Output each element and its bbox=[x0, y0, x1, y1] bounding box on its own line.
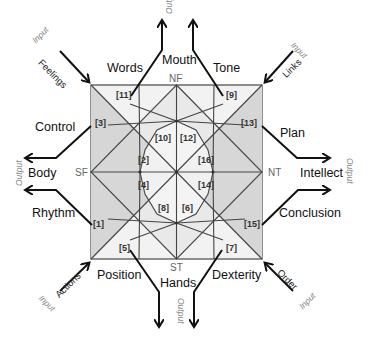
label-tone: Tone bbox=[213, 61, 240, 75]
region-10: [10] bbox=[155, 133, 171, 143]
region-8: [8] bbox=[158, 203, 169, 213]
region-15: [15] bbox=[244, 219, 260, 229]
arrow-dexterity bbox=[194, 250, 222, 325]
arrow-hands bbox=[130, 250, 159, 325]
region-12: [12] bbox=[180, 133, 196, 143]
label-plan: Plan bbox=[280, 126, 305, 140]
label-body: Body bbox=[28, 166, 57, 180]
pole-nf: NF bbox=[169, 73, 182, 84]
label-intellect: Intellect bbox=[300, 166, 343, 180]
pole-nt: NT bbox=[268, 167, 281, 178]
region-6: [6] bbox=[182, 203, 193, 213]
label-hands: Hands bbox=[160, 276, 196, 290]
region-13: [13] bbox=[241, 118, 257, 128]
label-dexterity: Dexterity bbox=[212, 268, 261, 282]
region-11: [11] bbox=[116, 90, 132, 100]
tag-output-bottom: Output bbox=[176, 298, 186, 324]
label-control: Control bbox=[35, 120, 75, 134]
pole-st: ST bbox=[170, 262, 183, 273]
label-rhythm: Rhythm bbox=[32, 206, 75, 220]
label-words: Words bbox=[107, 61, 143, 75]
region-4: [4] bbox=[138, 180, 149, 190]
region-3: [3] bbox=[95, 118, 106, 128]
region-16: [16] bbox=[198, 155, 214, 165]
tag-output-top: Output bbox=[164, 0, 174, 14]
region-7: [7] bbox=[226, 243, 237, 253]
pole-sf: SF bbox=[75, 167, 88, 178]
region-2: [2] bbox=[138, 155, 149, 165]
region-9: [9] bbox=[226, 90, 237, 100]
label-position: Position bbox=[97, 268, 141, 282]
tag-output-right: Output bbox=[345, 158, 355, 184]
region-1: [1] bbox=[93, 219, 104, 229]
tag-output-left: Output bbox=[14, 160, 24, 186]
label-mouth: Mouth bbox=[162, 53, 197, 67]
region-5: [5] bbox=[119, 243, 130, 253]
region-14: [14] bbox=[198, 180, 214, 190]
label-conclusion: Conclusion bbox=[279, 206, 341, 220]
